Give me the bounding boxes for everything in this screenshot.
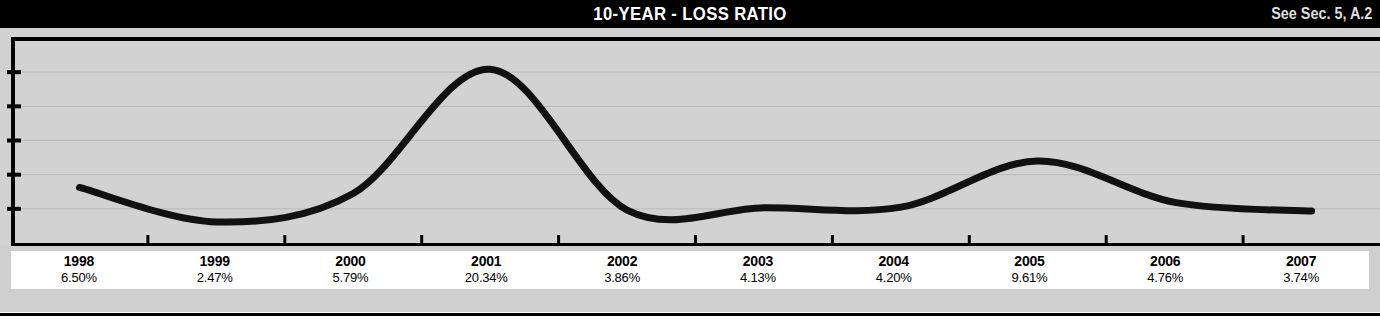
loss-ratio-percent: 4.20% <box>826 270 962 286</box>
year-value: 1999 <box>147 253 283 270</box>
year-label-cell: 20073.74% <box>1233 251 1369 289</box>
year-label-cell: 200120.34% <box>418 251 554 289</box>
loss-ratio-percent: 20.34% <box>418 270 554 286</box>
section-reference: See Sec. 5, A.2 <box>1271 3 1372 25</box>
year-label-cell: 19992.47% <box>147 251 283 289</box>
year-value: 2004 <box>826 253 962 270</box>
loss-ratio-percent: 3.74% <box>1233 270 1369 286</box>
year-label-cell: 20064.76% <box>1097 251 1233 289</box>
panel-header: 10-YEAR - LOSS RATIO See Sec. 5, A.2 <box>0 0 1380 28</box>
year-value: 2003 <box>690 253 826 270</box>
year-value: 2001 <box>418 253 554 270</box>
year-label-row: 19986.50%19992.47%20005.79%200120.34%200… <box>11 251 1369 289</box>
footer-spacer <box>0 316 1380 324</box>
year-value: 2000 <box>283 253 419 270</box>
loss-ratio-percent: 9.61% <box>962 270 1098 286</box>
loss-ratio-percent: 2.47% <box>147 270 283 286</box>
year-label-cell: 20023.86% <box>554 251 690 289</box>
year-value: 2002 <box>554 253 690 270</box>
loss-ratio-line-chart <box>0 36 1380 248</box>
chart-gridlines <box>13 72 1380 209</box>
loss-ratio-percent: 4.76% <box>1097 270 1233 286</box>
year-value: 2006 <box>1097 253 1233 270</box>
loss-ratio-chart-panel: 10-YEAR - LOSS RATIO See Sec. 5, A.2 199… <box>0 0 1380 324</box>
year-value: 1998 <box>11 253 147 270</box>
loss-ratio-percent: 4.13% <box>690 270 826 286</box>
page-title: 10-YEAR - LOSS RATIO <box>83 2 1297 26</box>
year-label-cell: 20044.20% <box>826 251 962 289</box>
loss-ratio-percent: 5.79% <box>283 270 419 286</box>
chart-axes <box>11 38 1380 245</box>
year-value: 2007 <box>1233 253 1369 270</box>
loss-ratio-percent: 3.86% <box>554 270 690 286</box>
loss-ratio-percent: 6.50% <box>11 270 147 286</box>
year-label-band: 19986.50%19992.47%20005.79%200120.34%200… <box>0 246 1380 312</box>
year-label-cell: 20059.61% <box>962 251 1098 289</box>
loss-ratio-series-line <box>79 69 1311 222</box>
year-value: 2005 <box>962 253 1098 270</box>
chart-plot-area <box>0 36 1380 248</box>
year-label-cell: 20005.79% <box>283 251 419 289</box>
year-label-cell: 20034.13% <box>690 251 826 289</box>
year-label-cell: 19986.50% <box>11 251 147 289</box>
